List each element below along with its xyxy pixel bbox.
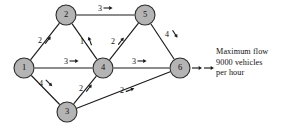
node-1[interactable]: 1 bbox=[14, 58, 34, 78]
edge-label-4-6: 3 bbox=[132, 57, 136, 66]
node-6[interactable]: 6 bbox=[170, 58, 190, 78]
flow-annotation: Maximum flow 9000 vehicles per hour bbox=[216, 47, 288, 79]
node-label-3: 3 bbox=[65, 106, 69, 116]
node-label-6: 6 bbox=[178, 62, 182, 72]
arrow-head-4-6-icon bbox=[138, 59, 147, 63]
edge-3-to-4 bbox=[74, 76, 97, 104]
node-label-1: 1 bbox=[22, 62, 26, 72]
node-label-5: 5 bbox=[143, 9, 147, 19]
edge-1-to-3 bbox=[31, 76, 59, 105]
node-5[interactable]: 5 bbox=[135, 5, 155, 25]
node-3[interactable]: 3 bbox=[57, 102, 77, 122]
node-group: 123456 bbox=[14, 5, 190, 122]
node-2[interactable]: 2 bbox=[56, 5, 76, 25]
edge-label-1-4: 3 bbox=[64, 57, 68, 66]
arrow-head-1-4-icon bbox=[70, 59, 79, 63]
edge-label-3-4: 2 bbox=[79, 84, 83, 93]
edge-1-to-2 bbox=[31, 23, 60, 60]
node-4[interactable]: 4 bbox=[93, 58, 113, 78]
annotation-line-3: per hour bbox=[216, 68, 288, 79]
annotation-line-1: Maximum flow bbox=[216, 47, 288, 58]
arrow-head-2-5-icon bbox=[104, 6, 113, 10]
edge-label-5-6: 4 bbox=[165, 30, 169, 39]
output-flow-arrow-segment-1-icon bbox=[192, 66, 202, 70]
node-label-2: 2 bbox=[64, 9, 68, 19]
arrow-head-1-3-icon bbox=[44, 78, 53, 87]
edge-5-to-6 bbox=[151, 24, 174, 59]
output-flow-arrow-segment-2-icon bbox=[204, 66, 214, 70]
edge-4-to-2 bbox=[72, 24, 97, 60]
edge-label-2-5: 3 bbox=[98, 4, 102, 13]
arrow-head-5-6-icon bbox=[171, 29, 179, 39]
arrow-head-1-2-icon bbox=[44, 35, 53, 45]
figure-canvas: 2343124322 123456 Maximum flow 9000 vehi… bbox=[0, 0, 288, 128]
edge-label-4-5: 2 bbox=[111, 37, 115, 46]
arrow-head-4-2-icon bbox=[87, 36, 94, 46]
edge-label-1-2: 2 bbox=[38, 36, 42, 45]
edge-label-1-3: 4 bbox=[39, 79, 43, 88]
edge-label-3-6: 2 bbox=[120, 86, 124, 95]
annotation-line-2: 9000 vehicles bbox=[216, 58, 288, 69]
output-arrow-group bbox=[192, 66, 214, 70]
edge-label-4-2: 1 bbox=[80, 37, 84, 46]
